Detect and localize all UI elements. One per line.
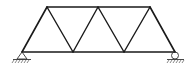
web-diagonal-1 [47, 7, 73, 52]
right-end-diagonal [150, 7, 175, 52]
pin-support-left [12, 52, 31, 63]
truss-diagram [0, 0, 189, 71]
roller-support-right [167, 52, 184, 63]
web-diagonal-2 [73, 7, 98, 52]
web-diagonal-3 [98, 7, 124, 52]
web-diagonal-4 [124, 7, 150, 52]
truss-svg [0, 0, 189, 71]
left-end-diagonal [22, 7, 47, 52]
